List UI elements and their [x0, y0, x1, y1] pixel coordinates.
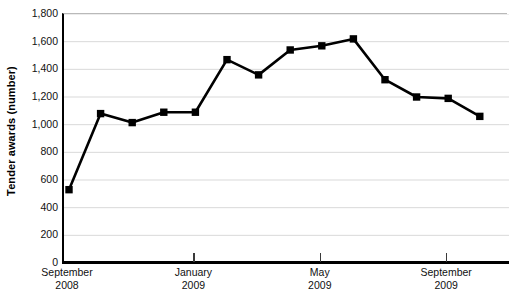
x-axis-tick-month: January [175, 266, 212, 278]
plot-svg [64, 14, 509, 263]
x-axis-tick-label: January2009 [175, 266, 212, 292]
x-axis-tick-year: 2008 [41, 279, 92, 292]
data-point-marker [381, 76, 388, 83]
x-axis-tick-label: September2008 [41, 266, 92, 292]
y-axis-tick-label: 1,000 [20, 118, 58, 129]
data-point-marker [476, 113, 483, 120]
x-axis-tick [320, 253, 321, 262]
data-point-marker [160, 109, 167, 116]
x-axis-tick-year: 2009 [421, 279, 472, 292]
x-axis-tick-month: September [41, 266, 92, 278]
x-axis-tick-year: 2009 [175, 279, 212, 292]
x-axis-tick-year: 2009 [308, 279, 331, 292]
x-axis-tick-month: September [421, 266, 472, 278]
data-point-marker [192, 109, 199, 116]
x-axis-tick [193, 253, 194, 262]
y-axis-tick-label: 1,600 [20, 35, 58, 46]
y-axis-tick-labels: 1,8001,6001,4001,2001,0008006004002000 [18, 0, 58, 306]
x-axis-line [62, 261, 509, 264]
y-axis-tick-label: 600 [20, 174, 58, 185]
y-axis-tick-label: 1,200 [20, 91, 58, 102]
tender-awards-line-chart: Tender awards (number) 1,8001,6001,4001,… [0, 0, 514, 306]
x-axis-tick-month: May [310, 266, 330, 278]
data-point-marker [129, 119, 136, 126]
y-axis-title-text: Tender awards (number) [5, 66, 17, 196]
y-axis-tick-label: 800 [20, 146, 58, 157]
x-axis-tick [446, 253, 447, 262]
x-axis-tick-label: September2009 [421, 266, 472, 292]
data-point-marker [223, 56, 230, 63]
plot-area [62, 13, 507, 262]
data-point-marker [255, 71, 262, 78]
data-point-marker [318, 42, 325, 49]
data-point-marker [65, 186, 72, 193]
data-point-marker [445, 95, 452, 102]
x-axis-tick-label: May2009 [308, 266, 331, 292]
data-point-marker [413, 93, 420, 100]
y-axis-tick-label: 200 [20, 229, 58, 240]
y-axis-tick-label: 400 [20, 201, 58, 212]
data-point-marker [97, 110, 104, 117]
y-axis-tick-label: 1,800 [20, 8, 58, 19]
data-markers [65, 35, 483, 193]
data-line [69, 39, 480, 190]
y-axis-tick-label: 1,400 [20, 63, 58, 74]
data-point-marker [287, 46, 294, 53]
data-point-marker [350, 35, 357, 42]
